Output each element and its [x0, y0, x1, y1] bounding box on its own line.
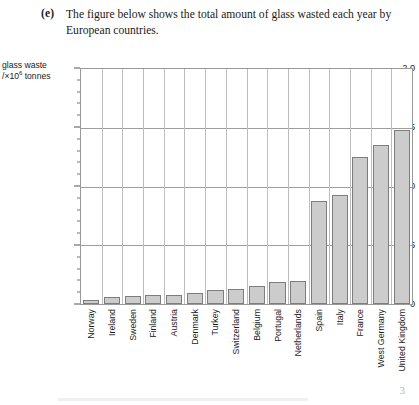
- bar-slot: [83, 69, 99, 304]
- x-label-finland: Finland: [148, 309, 158, 338]
- bar-slot: [311, 69, 327, 304]
- question-label: (e): [41, 7, 54, 19]
- x-label-norway: Norway: [86, 309, 96, 339]
- bar-slot: [249, 69, 265, 304]
- bar-chart-figure: glass waste /×106 tonnes 00.51.01.52.0 N…: [0, 52, 419, 405]
- bar-slot: [290, 69, 306, 304]
- bar-west-germany: [373, 145, 389, 304]
- x-label-portugal: Portugal: [273, 309, 283, 342]
- bar-turkey: [207, 290, 223, 304]
- page-number: 3: [400, 386, 406, 396]
- question-text: The figure below shows the total amount …: [66, 7, 411, 38]
- bar-portugal: [269, 282, 285, 304]
- bar-slot: [228, 69, 244, 304]
- bar-slot: [145, 69, 161, 304]
- bar-united-kingdom: [394, 130, 410, 304]
- x-label-denmark: Denmark: [190, 309, 200, 345]
- bar-spain: [311, 201, 327, 304]
- bar-slot: [104, 69, 120, 304]
- x-label-west-germany: West Germany: [376, 309, 386, 368]
- x-label-united-kingdom: United Kingdom: [397, 309, 407, 372]
- x-label-switzerland: Switzerland: [231, 309, 241, 354]
- bar-slot: [394, 69, 410, 304]
- y-axis-caption: glass waste /×106 tonnes: [2, 60, 68, 81]
- bar-slot: [166, 69, 182, 304]
- bar-norway: [83, 300, 99, 304]
- x-label-france: France: [355, 309, 365, 336]
- bar-slot: [187, 69, 203, 304]
- y-axis-caption-line2-prefix: /×10: [2, 71, 19, 81]
- x-label-netherlands: Netherlands: [293, 309, 303, 356]
- question-block: (e) The figure below shows the total amo…: [0, 0, 419, 52]
- bar-slot: [352, 69, 368, 304]
- bar-ireland: [104, 297, 120, 304]
- x-label-austria: Austria: [169, 309, 179, 336]
- x-label-turkey: Turkey: [210, 309, 220, 336]
- bar-belgium: [249, 286, 265, 304]
- bar-slot: [269, 69, 285, 304]
- bar-slot: [332, 69, 348, 304]
- page-footer: 3: [0, 386, 419, 405]
- x-label-sweden: Sweden: [128, 309, 138, 341]
- bar-slot: [125, 69, 141, 304]
- x-label-belgium: Belgium: [252, 309, 262, 341]
- x-label-ireland: Ireland: [107, 309, 117, 336]
- y-axis-caption-line2-suffix: tonnes: [22, 71, 50, 81]
- footer-smudge: [58, 398, 308, 401]
- bar-slot: [207, 69, 223, 304]
- x-label-italy: Italy: [335, 309, 345, 325]
- bar-switzerland: [228, 289, 244, 304]
- bar-italy: [332, 195, 348, 304]
- bar-france: [352, 157, 368, 304]
- x-label-spain: Spain: [314, 309, 324, 332]
- y-axis-caption-line1: glass waste: [2, 60, 47, 70]
- bar-slot: [373, 69, 389, 304]
- bar-finland: [145, 295, 161, 304]
- bar-netherlands: [290, 281, 306, 305]
- bars-layer: [81, 69, 412, 304]
- bar-sweden: [125, 296, 141, 304]
- bar-austria: [166, 295, 182, 304]
- bar-denmark: [187, 293, 203, 304]
